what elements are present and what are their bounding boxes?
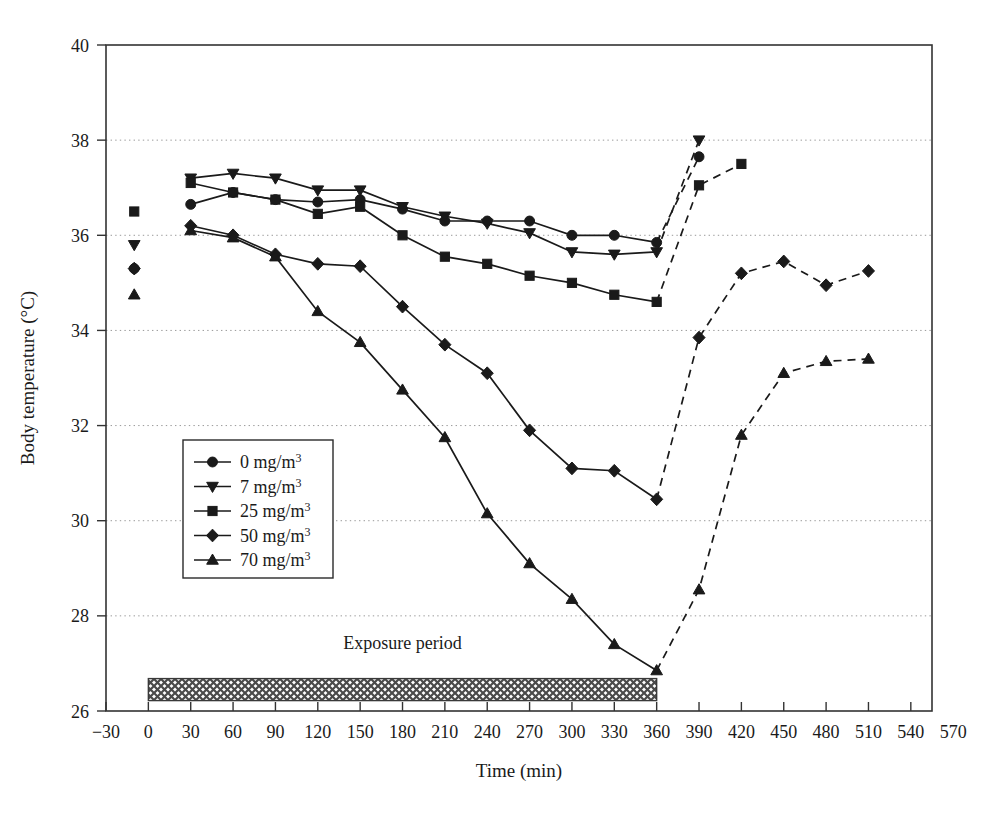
marker-square [186, 178, 195, 187]
x-axis-title: Time (min) [476, 760, 562, 782]
marker-circle [609, 230, 619, 240]
x-tick-label: 60 [224, 722, 242, 742]
marker-square [567, 278, 576, 287]
x-tick-label: 270 [516, 722, 543, 742]
x-tick-label: −30 [92, 722, 120, 742]
y-axis-title: Body temperature (°C) [17, 291, 39, 465]
x-tick-label: 300 [558, 722, 585, 742]
legend-label-superscript: 3 [305, 549, 311, 563]
marker-square [271, 195, 280, 204]
y-tick-label: 36 [71, 226, 89, 246]
x-tick-label: 0 [144, 722, 153, 742]
x-tick-label: 360 [643, 722, 670, 742]
x-tick-label: 390 [686, 722, 713, 742]
marker-square [525, 271, 534, 280]
marker-circle [525, 216, 535, 226]
marker-circle [186, 199, 196, 209]
x-tick-label: 540 [897, 722, 924, 742]
x-tick-label: 240 [474, 722, 501, 742]
legend-label-superscript: 3 [296, 476, 302, 490]
legend-label-superscript: 3 [305, 500, 311, 514]
marker-square [737, 159, 746, 168]
legend-label: 25 mg/m3 [240, 500, 311, 521]
marker-square [694, 181, 703, 190]
x-tick-label: 210 [431, 722, 458, 742]
y-tick-label: 26 [71, 702, 89, 722]
legend-box: 0 mg/m37 mg/m325 mg/m350 mg/m370 mg/m3 [183, 440, 333, 578]
y-tick-label: 28 [71, 606, 89, 626]
x-tick-label: 120 [304, 722, 331, 742]
marker-circle [694, 152, 704, 162]
chart-figure: −300306090120150180210240270300330360390… [0, 0, 982, 822]
x-tick-label: 420 [728, 722, 755, 742]
marker-circle [313, 197, 323, 207]
y-tick-label: 40 [71, 36, 89, 56]
legend-label: 0 mg/m3 [240, 451, 302, 472]
exposure-label: Exposure period [343, 633, 461, 653]
x-tick-label: 330 [601, 722, 628, 742]
x-tick-label: 480 [813, 722, 840, 742]
x-tick-label: 30 [182, 722, 200, 742]
marker-square [483, 259, 492, 268]
marker-circle [567, 230, 577, 240]
x-tick-label: 90 [266, 722, 284, 742]
marker-square [356, 202, 365, 211]
legend-label-superscript: 3 [296, 451, 302, 465]
legend-label: 70 mg/m3 [240, 549, 311, 570]
marker-square [652, 297, 661, 306]
x-tick-label: 570 [940, 722, 967, 742]
y-tick-label: 34 [71, 321, 89, 341]
y-tick-label: 38 [71, 131, 89, 151]
marker-circle [208, 457, 218, 467]
marker-circle [652, 237, 662, 247]
marker-square [398, 231, 407, 240]
x-tick-label: 450 [770, 722, 797, 742]
legend-label-superscript: 3 [305, 525, 311, 539]
y-tick-label: 30 [71, 511, 89, 531]
marker-square [440, 252, 449, 261]
x-tick-label: 510 [855, 722, 882, 742]
legend-label: 7 mg/m3 [240, 476, 302, 497]
y-tick-label: 32 [71, 416, 89, 436]
marker-square [130, 207, 139, 216]
x-tick-label: 150 [347, 722, 374, 742]
marker-square [208, 506, 217, 515]
marker-square [228, 188, 237, 197]
x-tick-label: 180 [389, 722, 416, 742]
marker-square [610, 290, 619, 299]
exposure-bar [148, 679, 656, 701]
line-chart-svg: −300306090120150180210240270300330360390… [0, 0, 982, 822]
legend-label: 50 mg/m3 [240, 525, 311, 546]
marker-square [313, 209, 322, 218]
